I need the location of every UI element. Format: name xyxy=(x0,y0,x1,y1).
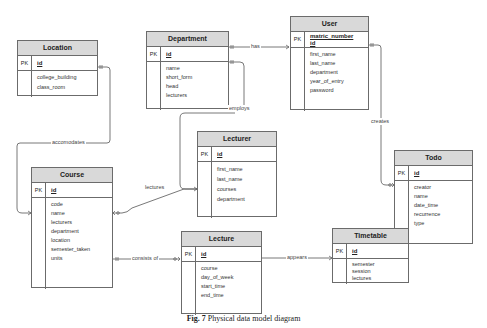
entity-location[interactable]: Location PK id college_building class_ro… xyxy=(17,40,98,96)
pk-row: PK id xyxy=(32,183,112,198)
entity-title: Todo xyxy=(395,151,472,166)
entity-title: Lecturer xyxy=(198,132,276,147)
field: class_room xyxy=(18,84,97,90)
field: semester xyxy=(333,261,408,267)
pk-label: PK xyxy=(147,47,161,61)
entity-title: Lecture xyxy=(182,232,261,247)
pk-row: PK id xyxy=(147,47,228,62)
field-list: first_name last_name department year_of_… xyxy=(291,48,368,111)
pk-label: PK xyxy=(395,166,409,180)
relationship-label-employs: employs xyxy=(228,105,250,112)
field: day_of_week xyxy=(182,274,261,280)
relationship-label-appears: appears xyxy=(286,254,308,261)
field: end_time xyxy=(182,292,261,298)
field: year_of_entry xyxy=(291,78,368,84)
field: department xyxy=(198,196,276,202)
pk-row: PK id xyxy=(395,166,472,181)
entity-lecturer[interactable]: Lecturer PK id first_name last_name cour… xyxy=(197,131,277,217)
field-list: college_building class_room xyxy=(18,71,97,97)
pk-label: PK xyxy=(333,244,347,258)
entity-course[interactable]: Course PK id code name lecturers departm… xyxy=(31,167,113,288)
field: start_time xyxy=(182,283,261,289)
field: department xyxy=(32,228,112,234)
figure-caption: Fig. 7 Physical data model diagram xyxy=(0,314,487,323)
field: location xyxy=(32,237,112,243)
field: first_name xyxy=(198,166,276,172)
relationship-label-has: has xyxy=(250,43,261,50)
field: last_name xyxy=(291,60,368,66)
entity-department[interactable]: Department PK id name short_form head le… xyxy=(146,31,229,109)
pk-field: id xyxy=(37,56,42,70)
pk-field-line: matric_number xyxy=(310,33,353,39)
entity-lecture[interactable]: Lecture PK id course day_of_week start_t… xyxy=(181,231,262,314)
pk-field: id xyxy=(51,183,56,197)
field: session xyxy=(333,268,408,274)
entity-title: Location xyxy=(18,41,97,56)
entity-title: User xyxy=(291,17,368,32)
relationship-label-accomodates: accomodates xyxy=(51,139,86,146)
field: password xyxy=(291,87,368,93)
entity-timetable[interactable]: Timetable PK id semester session lecture… xyxy=(332,228,409,283)
relationship-label-creates: creates xyxy=(370,118,390,125)
pk-field: id xyxy=(201,247,206,261)
field: courses xyxy=(198,186,276,192)
figure-label: Fig. 7 xyxy=(187,314,206,323)
pk-row: PK id xyxy=(182,247,261,262)
pk-field: matric_number id xyxy=(310,33,353,46)
entity-title: Department xyxy=(147,32,228,47)
entity-user[interactable]: User PK matric_number id first_name last… xyxy=(290,16,369,110)
field: lecturers xyxy=(147,92,228,98)
field: course xyxy=(182,265,261,271)
line-lectures xyxy=(113,189,197,213)
entity-title: Timetable xyxy=(333,229,408,244)
field: lectures xyxy=(333,275,408,281)
pk-row: PK matric_number id xyxy=(291,32,368,48)
field: creator xyxy=(395,184,472,190)
entity-title: Course xyxy=(32,168,112,183)
relationship-label-consists-of: consists of xyxy=(131,255,159,262)
pk-field: id xyxy=(414,166,419,180)
field: head xyxy=(147,83,228,89)
field: short_form xyxy=(147,74,228,80)
field-list: course day_of_week start_time end_time xyxy=(182,262,261,315)
field: type xyxy=(395,220,472,226)
pk-row: PK id xyxy=(198,147,276,162)
field: recurrence xyxy=(395,211,472,217)
pk-label: PK xyxy=(32,183,46,197)
field: lecturers xyxy=(32,219,112,225)
line-creates xyxy=(369,45,394,185)
figure-text: Physical data model diagram xyxy=(208,314,301,323)
pk-label: PK xyxy=(291,32,305,47)
pk-row: PK id xyxy=(333,244,408,259)
pk-field: id xyxy=(217,147,222,161)
field: name xyxy=(32,210,112,216)
field-list: semester session lectures xyxy=(333,259,408,284)
pk-field-line: id xyxy=(310,40,315,46)
field: semester_taken xyxy=(32,246,112,252)
pk-field: id xyxy=(352,244,357,258)
pk-label: PK xyxy=(198,147,212,161)
field: name xyxy=(147,65,228,71)
field-list: code name lecturers department location … xyxy=(32,198,112,289)
field: college_building xyxy=(18,74,97,80)
field-list: first_name last_name courses department xyxy=(198,162,276,218)
field: date_time xyxy=(395,202,472,208)
pk-label: PK xyxy=(18,56,32,70)
pk-row: PK id xyxy=(18,56,97,71)
field: code xyxy=(32,201,112,207)
field-list: name short_form head lecturers xyxy=(147,62,228,110)
field: department xyxy=(291,69,368,75)
field: first_name xyxy=(291,51,368,57)
relationship-label-lectures: lectures xyxy=(144,184,165,191)
pk-label: PK xyxy=(182,247,196,261)
pk-field: id xyxy=(166,47,171,61)
field: last_name xyxy=(198,176,276,182)
field: units xyxy=(32,255,112,261)
field: name xyxy=(395,193,472,199)
